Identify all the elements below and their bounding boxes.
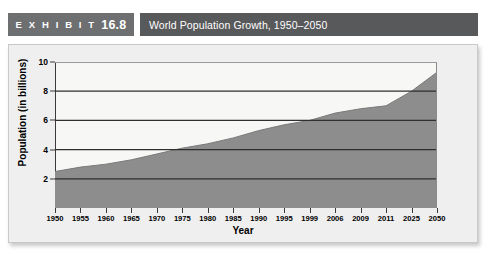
x-tick-mark (182, 208, 183, 213)
x-tick-mark (386, 208, 387, 213)
x-tick-mark (259, 208, 260, 213)
y-tick-mark (50, 62, 55, 63)
x-tick-label: 1975 (174, 214, 191, 223)
x-tick-mark (284, 208, 285, 213)
x-axis-label: Year (9, 225, 477, 236)
y-tick-mark (50, 91, 55, 92)
y-tick-mark (50, 149, 55, 150)
y-tick-label: 6 (22, 115, 48, 125)
x-tick-label: 1955 (72, 214, 89, 223)
x-tick-label: 1990 (250, 214, 267, 223)
x-tick-label: 1970 (148, 214, 165, 223)
y-tick-mark (50, 178, 55, 179)
exhibit-label: E X H I B I T (16, 19, 97, 30)
x-tick-label: 1999 (301, 214, 318, 223)
x-tick-label: 1980 (199, 214, 216, 223)
x-tick-mark (55, 208, 56, 213)
exhibit-title-block: World Population Growth, 1950–2050 (140, 13, 478, 36)
x-tick-label: 2006 (327, 214, 344, 223)
y-tick-label: 8 (22, 86, 48, 96)
y-tick-label: 10 (22, 57, 48, 67)
population-area-series (55, 72, 437, 208)
x-tick-mark (335, 208, 336, 213)
x-tick-mark (208, 208, 209, 213)
exhibit-number-block: E X H I B I T 16.8 (8, 13, 134, 36)
x-tick-label: 2009 (352, 214, 369, 223)
exhibit-header: E X H I B I T 16.8 World Population Grow… (8, 13, 478, 36)
x-tick-mark (106, 208, 107, 213)
x-tick-mark (361, 208, 362, 213)
x-tick-label: 1960 (97, 214, 114, 223)
exhibit-title: World Population Growth, 1950–2050 (149, 19, 327, 31)
x-tick-mark (80, 208, 81, 213)
x-tick-mark (157, 208, 158, 213)
y-tick-label: 4 (22, 145, 48, 155)
x-tick-label: 2025 (403, 214, 420, 223)
x-tick-label: 1995 (276, 214, 293, 223)
x-tick-label: 1950 (47, 214, 64, 223)
chart-panel: Population (in billions) 246810 19501955… (8, 44, 478, 243)
x-tick-mark (131, 208, 132, 213)
x-tick-mark (233, 208, 234, 213)
y-tick-label: 2 (22, 174, 48, 184)
x-tick-label: 2050 (429, 214, 446, 223)
x-tick-label: 2011 (378, 214, 394, 223)
x-tick-mark (412, 208, 413, 213)
x-tick-label: 1985 (225, 214, 242, 223)
plot-wrapper: 246810 (55, 62, 437, 208)
exhibit-number: 16.8 (101, 18, 126, 32)
x-tick-mark (437, 208, 438, 213)
area-chart-svg (55, 62, 437, 208)
x-tick-mark (310, 208, 311, 213)
x-tick-label: 1965 (123, 214, 140, 223)
y-tick-mark (50, 120, 55, 121)
